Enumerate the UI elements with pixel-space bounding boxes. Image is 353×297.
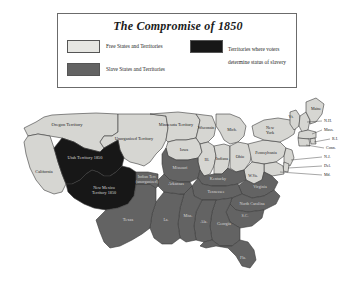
- map-label-new-hampshire: N.H.: [324, 118, 332, 123]
- map-label-florida: Fla.: [240, 255, 246, 260]
- legend-title: The Compromise of 1850: [58, 19, 298, 34]
- map-label-unorganized-territory: Unorganized Territory: [115, 136, 154, 141]
- legend-label-popular-sovereignty: Territories where voters determine statu…: [228, 40, 302, 65]
- map-label-massachusetts: Mass.: [324, 127, 333, 132]
- legend-swatch-free: [67, 40, 100, 53]
- map-label-tennessee: Tennessee: [207, 189, 224, 194]
- map-label-kentucky: Kentucky: [210, 176, 227, 181]
- map-label-arkansas: Arkansas: [168, 181, 184, 186]
- map-label-minnesota-territory: Minnesota Territory: [159, 122, 194, 127]
- leader-line-maryland: [280, 172, 322, 175]
- map-label-georgia: Georgia: [217, 221, 231, 226]
- map-label-illinois: Ill.: [205, 157, 210, 162]
- map-label-iowa: Iowa: [180, 147, 189, 152]
- legend-label-popsov-line1: Territories where voters: [228, 46, 279, 52]
- map-figure: The Compromise of 1850 Free States and T…: [0, 0, 353, 297]
- region-delaware: [283, 162, 289, 172]
- map-label-wisconsin: Wisconsin: [198, 125, 215, 130]
- map-label-maine: Maine: [311, 106, 321, 111]
- region-connecticut: [298, 138, 310, 146]
- map-label-new-mexico-territory: New MexicoTerritory 1850: [92, 185, 116, 195]
- leader-line-new-jersey: [291, 157, 322, 160]
- map-label-mississippi: Miss.: [184, 213, 193, 218]
- map-label-utah-territory: Utah Territory 1850: [68, 155, 104, 160]
- map-label-missouri: Missouri: [173, 165, 189, 170]
- map-label-texas: Texas: [123, 217, 134, 222]
- map-label-connecticut: Conn.: [326, 145, 336, 150]
- map-legend: The Compromise of 1850 Free States and T…: [57, 13, 297, 88]
- map-label-north-carolina: North Carolina: [239, 201, 264, 206]
- legend-swatch-slave: [67, 63, 100, 76]
- legend-swatch-popular-sovereignty: [190, 40, 223, 53]
- map-label-delaware: Del.: [324, 163, 331, 168]
- map-label-pennsylvania: Pennsylvania: [255, 150, 277, 155]
- map-label-west-virginia: W.Va.: [248, 174, 257, 178]
- map-label-louisiana: La.: [163, 217, 168, 222]
- legend-label-slave: Slave States and Territories: [106, 66, 236, 72]
- region-rhode-island: [310, 138, 316, 144]
- us-map: Oregon Territory Unorganized Territory M…: [0, 92, 353, 272]
- map-label-california: California: [35, 169, 53, 174]
- map-label-new-jersey: N.J.: [324, 154, 330, 159]
- map-label-maryland: Md.: [324, 172, 331, 177]
- region-massachusetts: [298, 130, 316, 139]
- leader-line-connecticut: [306, 145, 324, 148]
- map-label-ohio: Ohio: [236, 154, 244, 159]
- leader-line-delaware: [288, 166, 322, 168]
- map-label-indiana: Indiana: [216, 156, 228, 161]
- map-label-south-carolina: S.C.: [242, 213, 249, 218]
- leader-line-rhode-island: [314, 139, 330, 142]
- map-label-rhode-island: R.I.: [332, 136, 338, 141]
- map-label-virginia: Virginia: [253, 184, 267, 189]
- map-label-vermont: Vt.: [289, 114, 294, 119]
- legend-label-popsov-line2: determine status of slavery: [228, 59, 286, 65]
- map-label-michigan: Mich.: [227, 127, 236, 132]
- map-label-oregon-territory: Oregon Territory: [51, 122, 83, 127]
- map-label-new-york: NewYork: [266, 125, 275, 135]
- map-label-alabama: Ala.: [201, 219, 208, 224]
- map-label-indian-territory: Indian Terr.(unorganized): [136, 174, 159, 184]
